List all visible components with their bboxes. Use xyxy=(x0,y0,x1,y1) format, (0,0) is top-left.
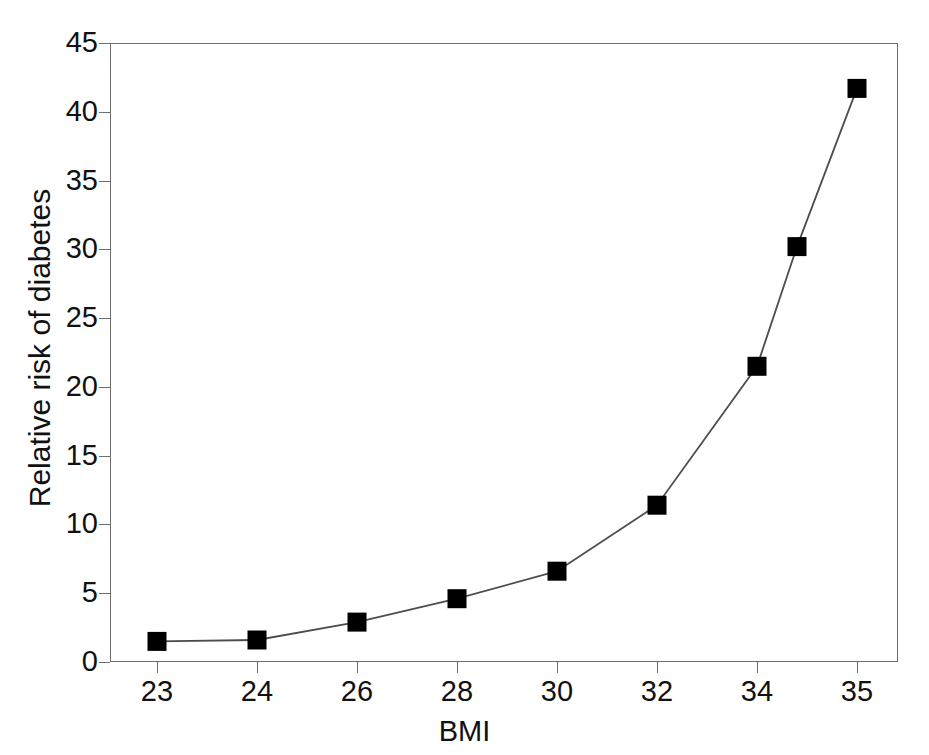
y-axis-tick-mark xyxy=(99,593,110,594)
y-axis-tick-mark xyxy=(99,524,110,525)
data-point-marker xyxy=(748,357,767,376)
y-axis-tick-mark xyxy=(99,249,110,250)
plot-series-canvas xyxy=(110,43,898,662)
y-axis-tick-label: 35 xyxy=(66,166,98,195)
y-axis-tick-mark xyxy=(99,662,110,663)
x-axis-tick-label: 26 xyxy=(341,676,373,706)
y-axis-tick-mark xyxy=(99,456,110,457)
x-axis-tick-label: 24 xyxy=(241,676,273,706)
data-point-marker xyxy=(248,631,267,650)
y-axis-tick-mark xyxy=(99,318,110,319)
x-axis-tick-mark xyxy=(157,662,158,673)
y-axis-tick-label: 10 xyxy=(66,509,98,538)
x-axis-tick-mark xyxy=(757,662,758,673)
chart-figure: 051015202530354045 2324262830323435 BMI … xyxy=(0,0,929,755)
y-axis-tick-label: 0 xyxy=(82,647,98,676)
data-point-marker xyxy=(448,589,467,608)
x-axis-tick-mark xyxy=(857,662,858,673)
y-axis-tick-label: 40 xyxy=(66,97,98,126)
data-point-marker xyxy=(788,237,807,256)
y-axis-tick-mark xyxy=(99,43,110,44)
y-axis-tick-mark xyxy=(99,112,110,113)
x-axis-tick-mark xyxy=(657,662,658,673)
x-axis-tick-mark xyxy=(257,662,258,673)
y-axis-tick-label: 45 xyxy=(66,28,98,57)
y-axis-tick-label: 25 xyxy=(66,303,98,332)
x-axis-tick-label: 35 xyxy=(841,676,873,706)
y-axis-title: Relative risk of diabetes xyxy=(24,8,56,688)
y-axis-tick-label: 5 xyxy=(82,578,98,607)
x-axis-tick-label: 28 xyxy=(441,676,473,706)
data-point-marker xyxy=(848,79,867,98)
data-point-marker xyxy=(348,613,367,632)
y-axis-tick-label: 15 xyxy=(66,441,98,470)
x-axis-tick-mark xyxy=(357,662,358,673)
y-axis-tick-label: 30 xyxy=(66,234,98,263)
x-axis-tick-label: 32 xyxy=(641,676,673,706)
x-axis-tick-label: 34 xyxy=(741,676,773,706)
x-axis-tick-label: 23 xyxy=(141,676,173,706)
y-axis-tick-mark xyxy=(99,181,110,182)
series-markers xyxy=(148,79,867,651)
data-point-marker xyxy=(148,632,167,651)
x-axis-title: BMI xyxy=(0,716,929,746)
data-point-marker xyxy=(648,496,667,515)
y-axis-tick-label: 20 xyxy=(66,372,98,401)
data-point-marker xyxy=(548,562,567,581)
y-axis-tick-mark xyxy=(99,387,110,388)
x-axis-tick-mark xyxy=(457,662,458,673)
x-axis-tick-label: 30 xyxy=(541,676,573,706)
x-axis-tick-mark xyxy=(557,662,558,673)
